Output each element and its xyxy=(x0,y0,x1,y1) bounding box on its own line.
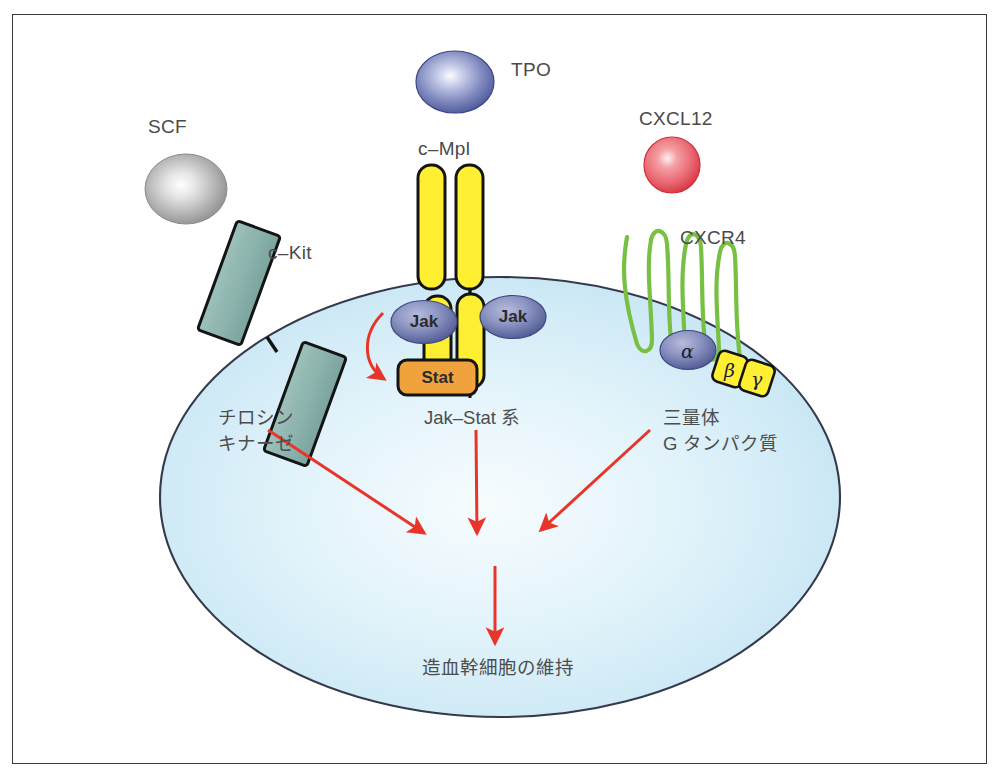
ligand-cxcl12[interactable] xyxy=(644,137,700,193)
label-scf: SCF xyxy=(148,116,187,138)
ligand-tpo[interactable] xyxy=(416,51,494,113)
label-tyrosine-kinase-pathway: チロシン キナーゼ xyxy=(218,405,294,457)
label-cxcr4: CXCR4 xyxy=(680,227,746,249)
label-trimeric-g-protein-line-1: 三量体 xyxy=(663,405,778,431)
label-trimeric-g-protein-line-2: G タンパク質 xyxy=(663,431,778,457)
label-jak-left: Jak xyxy=(394,312,454,332)
label-g-beta: β xyxy=(724,359,735,381)
label-tyrosine-kinase-line-2: キナーゼ xyxy=(218,431,294,457)
figure-root: SCF TPO CXCL12 c–Kit c–Mpl CXCR4 Jak Jak… xyxy=(0,0,1001,778)
label-g-gamma: γ xyxy=(751,368,762,390)
ligand-scf[interactable] xyxy=(145,154,227,224)
label-c-mpl: c–Mpl xyxy=(418,138,470,160)
label-c-kit: c–Kit xyxy=(268,242,312,264)
label-g-alpha: α xyxy=(681,340,694,362)
label-jak-stat-pathway: Jak–Stat 系 xyxy=(424,405,520,431)
c-kit-upper-domain xyxy=(198,221,281,346)
label-trimeric-g-protein-pathway: 三量体 G タンパク質 xyxy=(663,405,778,457)
label-jak-right: Jak xyxy=(483,307,543,327)
label-jak-stat-line-1: Jak–Stat 系 xyxy=(424,405,520,431)
label-cxcl12: CXCL12 xyxy=(639,108,713,130)
arrow-jak-stat-pathway xyxy=(476,430,477,533)
c-mpl-upper-right-arm xyxy=(456,165,483,289)
label-tpo: TPO xyxy=(511,59,551,81)
label-stat: Stat xyxy=(398,368,477,388)
label-tyrosine-kinase-line-1: チロシン xyxy=(218,405,294,431)
c-mpl-upper-left-arm xyxy=(418,165,445,289)
label-hsc-maintenance-outcome: 造血幹細胞の維持 xyxy=(422,655,574,681)
